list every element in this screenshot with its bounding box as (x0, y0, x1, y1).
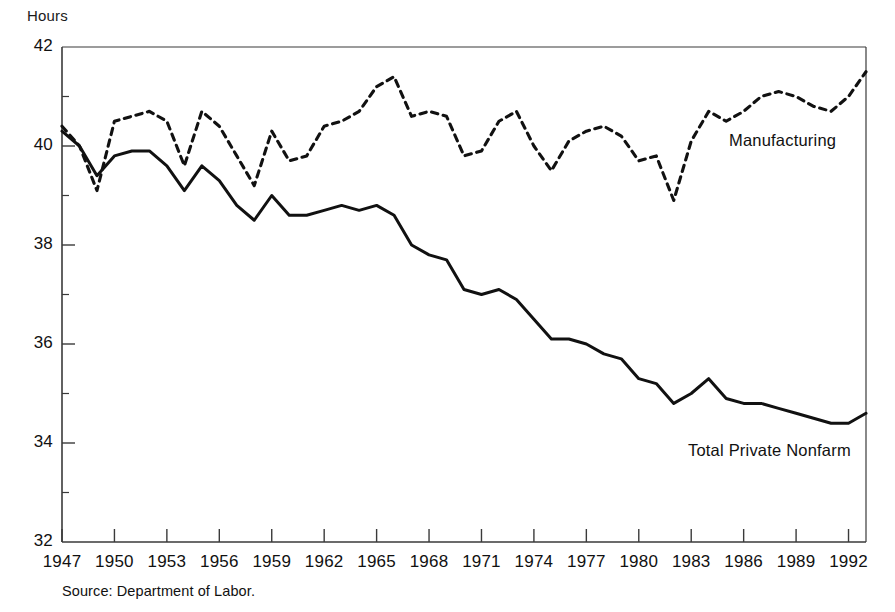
x-tick-label: 1986 (717, 552, 771, 572)
x-tick-label: 1956 (192, 552, 246, 572)
x-tick-label: 1992 (822, 552, 876, 572)
series-label-total-private-nonfarm: Total Private Nonfarm (688, 441, 851, 460)
x-tick-label: 1947 (35, 552, 89, 572)
x-tick-label: 1980 (612, 552, 666, 572)
chart-plot-area (0, 0, 895, 612)
series-label-manufacturing: Manufacturing (729, 131, 836, 150)
x-tick-label: 1983 (664, 552, 718, 572)
source-note: Source: Department of Labor. (62, 583, 255, 599)
y-axis-ticks (62, 97, 75, 493)
x-tick-label: 1965 (350, 552, 404, 572)
chart-figure: Hours 424038363432 194719501953195619591… (0, 0, 895, 612)
x-tick-label: 1968 (402, 552, 456, 572)
x-tick-label: 1977 (559, 552, 613, 572)
y-tick-label: 40 (19, 135, 53, 155)
y-tick-label: 34 (19, 432, 53, 452)
data-series-group (62, 72, 866, 423)
x-tick-label: 1962 (297, 552, 351, 572)
series-line-total-private-nonfarm (62, 131, 866, 423)
y-tick-label: 32 (19, 531, 53, 551)
y-tick-label: 36 (19, 333, 53, 353)
x-tick-label: 1953 (140, 552, 194, 572)
y-tick-label: 38 (19, 234, 53, 254)
x-tick-label: 1974 (507, 552, 561, 572)
x-tick-label: 1989 (769, 552, 823, 572)
x-tick-label: 1950 (87, 552, 141, 572)
y-tick-label: 42 (19, 36, 53, 56)
x-axis-ticks (62, 529, 849, 542)
plot-frame (62, 47, 866, 542)
x-tick-label: 1959 (245, 552, 299, 572)
x-tick-label: 1971 (454, 552, 508, 572)
